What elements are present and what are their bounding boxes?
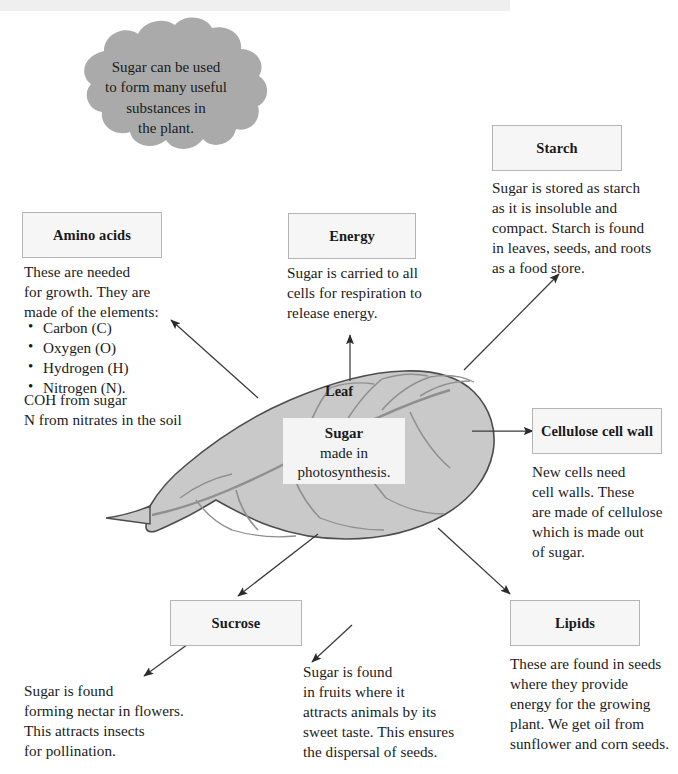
sugar-core-line3: photosynthesis. — [293, 463, 395, 483]
node-body-lipids: These are found in seeds where they prov… — [510, 654, 678, 754]
list-item: Oxygen (O) — [26, 338, 206, 358]
sugar-core-line1: Sugar — [293, 424, 395, 444]
node-body-energy: Sugar is carried to all cells for respir… — [287, 263, 507, 323]
leaf-label: Leaf — [325, 383, 353, 400]
arrow-leaf-to-sucrose — [238, 534, 318, 596]
sucrose-body-nectar: Sugar is found forming nectar in flowers… — [24, 681, 264, 761]
node-body-cellulose-cell-wall: New cells need cell walls. These are mad… — [532, 462, 678, 562]
scan-edge-artifact — [0, 0, 510, 11]
sucrose-body-fruit: Sugar is found in fruits where it attrac… — [303, 662, 493, 762]
list-item: Carbon (C) — [26, 318, 206, 338]
sugar-core-line2: made in — [293, 444, 395, 464]
node-box-energy[interactable]: Energy — [288, 213, 416, 259]
arrow-leaf-to-lipids — [438, 528, 510, 594]
node-body-amino-acids: These are needed for growth. They are ma… — [24, 262, 224, 322]
amino-acids-source-note: COH from sugar N from nitrates in the so… — [24, 390, 254, 430]
node-box-sucrose[interactable]: Sucrose — [170, 600, 302, 646]
node-box-lipids[interactable]: Lipids — [510, 600, 640, 646]
cloud-text: Sugar can be used to form many useful su… — [86, 57, 246, 138]
sugar-core-box: Sugar made in photosynthesis. — [283, 418, 405, 484]
amino-acids-element-list: Carbon (C) Oxygen (O) Hydrogen (H) Nitro… — [26, 318, 206, 398]
node-box-cellulose-cell-wall[interactable]: Cellulose cell wall — [532, 408, 662, 454]
node-box-amino-acids[interactable]: Amino acids — [22, 212, 162, 258]
arrow-sucrose-to-fruit-text — [312, 625, 352, 662]
node-body-starch: Sugar is stored as starch as it is insol… — [492, 178, 678, 278]
list-item: Hydrogen (H) — [26, 358, 206, 378]
node-box-starch[interactable]: Starch — [492, 125, 622, 171]
